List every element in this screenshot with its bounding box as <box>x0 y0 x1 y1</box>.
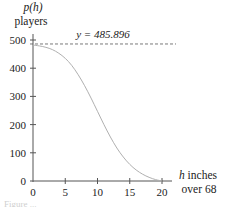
x-axis-title-line1: h inches <box>179 169 218 181</box>
y-axis-title-function: p(h) <box>22 1 42 14</box>
x-tick-label: 20 <box>157 186 169 198</box>
asymptote-label: y = 485.896 <box>75 28 130 40</box>
figure-caption: Figure ... <box>4 199 37 207</box>
y-tick-label: 400 <box>10 62 27 74</box>
x-tick-label: 10 <box>92 186 104 198</box>
logistic-curve <box>33 45 162 181</box>
x-tick-label: 0 <box>30 186 36 198</box>
y-tick-label: 500 <box>10 34 27 46</box>
y-ticks: 0100200300400500 <box>10 34 37 187</box>
y-tick-label: 100 <box>10 147 27 159</box>
x-tick-label: 15 <box>124 186 136 198</box>
logistic-chart: p(h) players y = 485.896 010020030040050… <box>0 0 226 207</box>
y-tick-label: 300 <box>10 90 27 102</box>
x-axis-title-line2: over 68 <box>182 183 217 195</box>
y-tick-label: 0 <box>21 175 27 187</box>
y-tick-label: 200 <box>10 119 27 131</box>
x-tick-label: 5 <box>63 186 69 198</box>
y-axis-title-units: players <box>14 15 48 28</box>
